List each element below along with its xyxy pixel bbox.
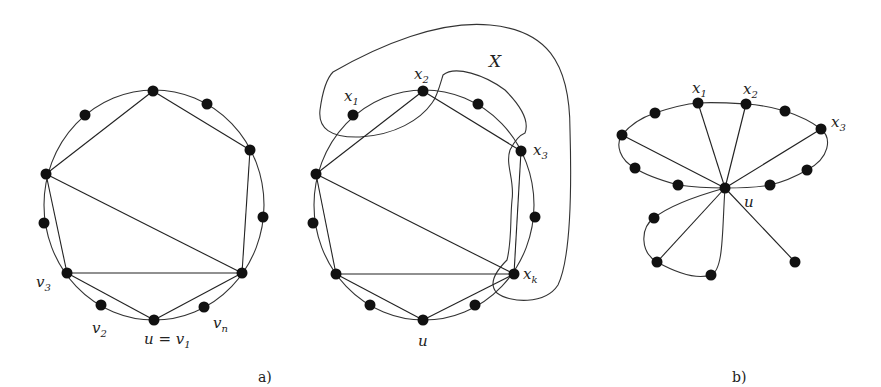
outer-cycle [44,90,264,320]
caption-a: a) [258,369,272,385]
label-v3: v3 [36,273,51,293]
figure: v3 v2 u = v1 vn a) X [0,0,881,387]
label-x1: x1 [692,79,707,99]
label-xk: xk [523,265,538,285]
left-graph: v3 v2 u = v1 vn [36,86,269,351]
caption-b: b) [732,369,746,385]
label-x1: x1 [344,87,359,107]
label-v2: v2 [92,319,107,339]
right-graph: x1 x2 x3 u [617,79,846,281]
label-x2: x2 [743,80,758,100]
region-x-outline [320,24,571,300]
label-x3: x3 [831,113,846,133]
label-X: X [487,51,502,71]
vertices [308,86,541,326]
label-u: u [744,193,754,211]
label-x2: x2 [414,65,429,85]
outer-cycle [314,90,534,320]
label-u-v1: u = v1 [144,330,191,350]
label-vn: vn [213,314,228,334]
vertices [39,86,269,326]
label-x3: x3 [533,141,548,161]
middle-graph: X x1 x2 x3 xk u [308,24,571,350]
label-u: u [418,332,428,350]
